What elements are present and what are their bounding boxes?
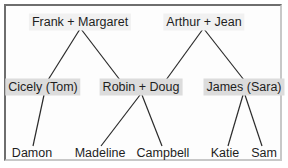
- edge-robin_doug-campbell: [142, 95, 162, 146]
- node-robin-doug: Robin + Doug: [100, 79, 183, 96]
- edge-arthur_jean-robin_doug: [166, 29, 203, 80]
- edge-frank_margaret-robin_doug: [81, 29, 120, 80]
- node-frank-margaret: Frank + Margaret: [29, 14, 131, 31]
- edge-cicely_tom-damon: [33, 95, 44, 146]
- node-arthur-jean: Arthur + Jean: [163, 14, 244, 31]
- node-katie: Katie: [208, 145, 243, 162]
- node-sam: Sam: [248, 145, 280, 162]
- edge-frank_margaret-cicely_tom: [48, 29, 80, 80]
- node-damon: Damon: [9, 145, 55, 162]
- edge-james_sara-sam: [245, 95, 262, 146]
- node-james-sara: James (Sara): [203, 79, 284, 96]
- node-madeline: Madeline: [72, 145, 129, 162]
- node-campbell: Campbell: [134, 145, 193, 162]
- edge-james_sara-katie: [228, 95, 243, 146]
- node-cicely-tom: Cicely (Tom): [5, 79, 80, 96]
- edge-arthur_jean-james_sara: [204, 29, 244, 80]
- edge-robin_doug-madeline: [101, 95, 140, 146]
